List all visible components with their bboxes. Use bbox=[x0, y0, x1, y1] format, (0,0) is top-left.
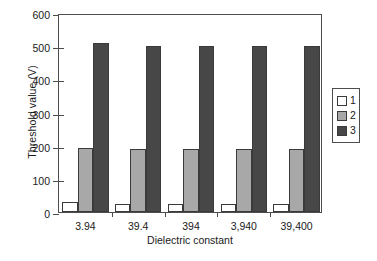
y-axis-tick-label: 300 bbox=[32, 109, 50, 121]
x-axis-tick bbox=[217, 212, 218, 217]
legend-item-2: 2 bbox=[337, 108, 356, 123]
bar-series-2-category-2 bbox=[183, 149, 199, 212]
legend-item-label: 3 bbox=[350, 125, 356, 136]
y-axis-tick bbox=[53, 15, 59, 16]
bar-series-2-category-4 bbox=[289, 149, 305, 212]
bar-series-1-category-1 bbox=[115, 204, 131, 212]
bar-series-3-category-4 bbox=[304, 46, 320, 212]
bar-series-1-category-3 bbox=[221, 204, 237, 212]
legend-swatch-icon bbox=[337, 96, 347, 106]
bar-series-3-category-2 bbox=[199, 46, 215, 212]
x-axis-tick-label: 3.94 bbox=[75, 220, 95, 232]
bar-series-3-category-0 bbox=[93, 43, 109, 212]
y-axis-tick-label: 100 bbox=[32, 175, 50, 187]
bar-series-1-category-2 bbox=[168, 204, 184, 212]
bar-series-2-category-0 bbox=[78, 148, 94, 212]
y-axis-tick-inner bbox=[59, 81, 64, 82]
bar-series-2-category-3 bbox=[236, 149, 252, 212]
chart-legend: 123 bbox=[332, 88, 360, 143]
bar-series-3-category-3 bbox=[252, 46, 268, 212]
y-axis-tick-label: 200 bbox=[32, 142, 50, 154]
legend-item-label: 1 bbox=[350, 95, 356, 106]
legend-item-3: 3 bbox=[337, 123, 356, 138]
bar-series-2-category-1 bbox=[130, 149, 146, 212]
y-axis-tick-inner bbox=[59, 148, 64, 149]
x-axis-tick-label: 39,400 bbox=[281, 220, 313, 232]
bar-series-1-category-0 bbox=[62, 202, 78, 212]
x-axis-title: Dielectric constant bbox=[58, 234, 322, 246]
x-axis-tick-label: 39.4 bbox=[128, 220, 148, 232]
y-axis-tick-label: 500 bbox=[32, 42, 50, 54]
y-axis-tick-label: 0 bbox=[44, 208, 50, 220]
bar-series-3-category-1 bbox=[146, 46, 162, 212]
y-axis-tick bbox=[53, 214, 59, 215]
legend-item-label: 2 bbox=[350, 110, 356, 121]
x-axis-tick-label: 394 bbox=[182, 220, 200, 232]
legend-swatch-icon bbox=[337, 111, 347, 121]
legend-item-1: 1 bbox=[337, 93, 356, 108]
x-axis-tick-label: 3,940 bbox=[231, 220, 257, 232]
x-axis-tick bbox=[112, 212, 113, 217]
y-axis-tick-inner bbox=[59, 181, 64, 182]
x-axis-tick bbox=[270, 212, 271, 217]
bar-chart-figure: Threshold value (V) 01002003004005006003… bbox=[0, 0, 377, 261]
y-axis-tick-inner bbox=[59, 115, 64, 116]
bar-series-1-category-4 bbox=[273, 204, 289, 212]
x-axis-tick bbox=[165, 212, 166, 217]
y-axis-tick-inner bbox=[59, 48, 64, 49]
plot-area: 01002003004005006003.9439.43943,94039,40… bbox=[58, 14, 322, 213]
legend-swatch-icon bbox=[337, 126, 347, 136]
y-axis-tick-label: 600 bbox=[32, 9, 50, 21]
y-axis-tick-label: 400 bbox=[32, 75, 50, 87]
